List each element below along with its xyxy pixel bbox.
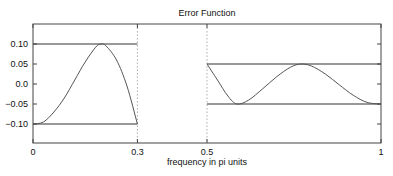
plot-area (0, 0, 393, 176)
x-tick-label: 1 (378, 147, 383, 157)
y-tick-label: 0.05 (0, 59, 28, 69)
x-axis-label: frequency in pi units (167, 157, 247, 167)
x-tick-label: 0.5 (201, 147, 214, 157)
y-tick-label: 0.10 (0, 39, 28, 49)
chart-title: Error Function (178, 8, 235, 18)
x-tick-label: 0.3 (131, 147, 144, 157)
error-passband-curve (33, 44, 137, 124)
x-tick-label: 0 (30, 147, 35, 157)
y-tick-label: 0.0 (0, 79, 28, 89)
error-stopband-curve (207, 64, 381, 104)
error-function-chart: Error Function frequency in pi units 0.1… (0, 0, 393, 176)
y-tick-label: −0.05 (0, 99, 28, 109)
y-tick-label: −0.10 (0, 119, 28, 129)
